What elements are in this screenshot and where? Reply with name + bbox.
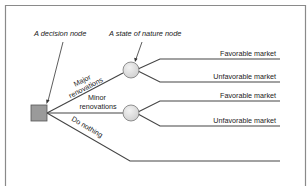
label-minor-line2: renovations bbox=[79, 102, 117, 111]
decision-node-arrowhead-icon bbox=[46, 100, 49, 105]
chance-node-minor bbox=[123, 105, 139, 121]
decision-node-pointer bbox=[48, 42, 63, 101]
label-minor-line1: Minor bbox=[88, 93, 107, 102]
label-major-unfavorable: Unfavorable market bbox=[213, 72, 276, 81]
outcome-minor-favorable bbox=[138, 101, 280, 112]
label-minor-unfavorable: Unfavorable market bbox=[213, 116, 276, 125]
label-major-favorable: Favorable market bbox=[220, 49, 276, 58]
chance-node-major bbox=[123, 62, 139, 78]
chance-node-pointer bbox=[136, 42, 142, 59]
chance-node-arrowhead-icon bbox=[134, 58, 137, 62]
callout-decision-node: A decision node bbox=[33, 29, 86, 38]
decision-tree-diagram: A decision node A state of nature node M… bbox=[0, 0, 308, 186]
callout-state-of-nature-node: A state of nature node bbox=[108, 29, 181, 38]
decision-node-square bbox=[31, 105, 47, 121]
outcome-major-favorable bbox=[138, 59, 280, 69]
label-minor-favorable: Favorable market bbox=[220, 91, 276, 100]
